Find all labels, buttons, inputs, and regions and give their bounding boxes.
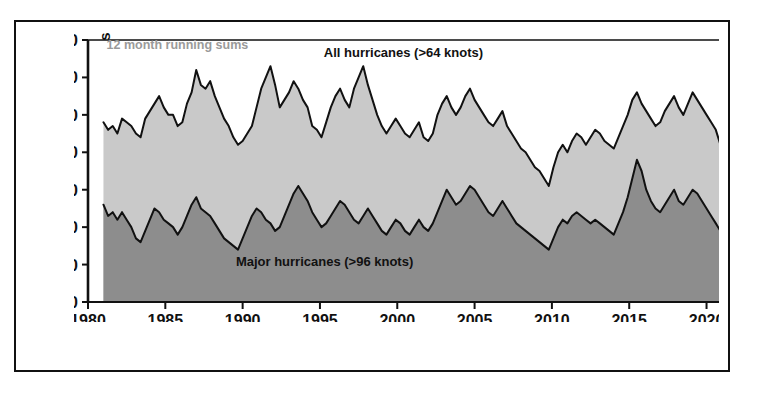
x-tick-label: 2000: [379, 312, 415, 322]
plot-area: 0102030405060701980198519901995200020052…: [74, 22, 719, 322]
x-tick-label: 2020: [689, 312, 719, 322]
x-tick-label: 1985: [148, 312, 184, 322]
y-tick-label: 70: [74, 32, 78, 49]
y-tick-label: 30: [74, 182, 78, 199]
y-tick-label: 0: [74, 294, 78, 311]
x-tick-label: 2010: [534, 312, 570, 322]
y-tick-label: 50: [74, 107, 78, 124]
label-major-hurricanes: Major hurricanes (>96 knots): [236, 254, 413, 269]
x-tick-label: 1995: [302, 312, 338, 322]
x-tick-label: 1990: [225, 312, 261, 322]
y-tick-label: 10: [74, 257, 78, 274]
x-tick-label: 1980: [74, 312, 106, 322]
y-tick-label: 40: [74, 144, 78, 161]
figure-root: Number of hurricanes 0102030405060701980…: [0, 0, 765, 394]
y-tick-label: 60: [74, 69, 78, 86]
x-tick-label: 2005: [457, 312, 493, 322]
y-tick-label: 20: [74, 219, 78, 236]
area-chart: 0102030405060701980198519901995200020052…: [74, 22, 719, 322]
label-all-hurricanes: All hurricanes (>64 knots): [324, 45, 483, 60]
note-running-sums: 12 month running sums: [107, 38, 249, 52]
x-tick-label: 2015: [611, 312, 647, 322]
